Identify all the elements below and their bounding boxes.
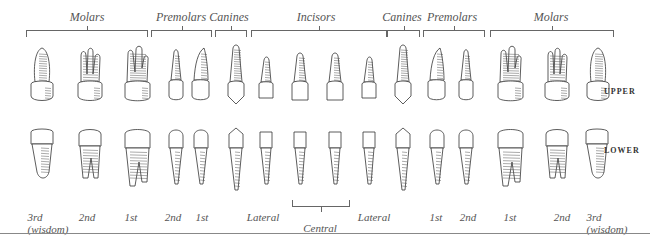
position-label: 2nd bbox=[79, 211, 96, 223]
tooth-illustration bbox=[122, 44, 152, 110]
position-label-text: 1st bbox=[504, 211, 517, 223]
upper-tooth-canine bbox=[388, 44, 418, 110]
tooth-illustration bbox=[320, 128, 350, 194]
position-label: 3rd(wisdom) bbox=[587, 211, 628, 235]
lower-tooth-lpremolar bbox=[186, 128, 216, 194]
lower-tooth-lincisor bbox=[354, 128, 384, 194]
position-label: 2nd bbox=[554, 211, 571, 223]
position-label: Lateral bbox=[247, 211, 279, 223]
upper-tooth-molar2 bbox=[75, 44, 105, 110]
position-label-text: 1st bbox=[430, 211, 443, 223]
lower-tooth-lincisor bbox=[285, 128, 315, 194]
lower-tooth-lmolar2 bbox=[542, 128, 572, 194]
group-label-canines: Canines bbox=[209, 10, 248, 25]
tooth-illustration bbox=[285, 128, 315, 194]
group-label-molars: Molars bbox=[70, 10, 105, 25]
tooth-illustration bbox=[388, 128, 418, 194]
tooth-illustration bbox=[251, 128, 281, 194]
tooth-illustration bbox=[354, 128, 384, 194]
upper-tooth-incisor-lat bbox=[251, 44, 281, 110]
position-label: 1st bbox=[430, 211, 443, 223]
upper-tooth-incisor bbox=[285, 44, 315, 110]
row-label-lower: LOWER bbox=[604, 146, 640, 155]
lower-tooth-lpremolar bbox=[451, 128, 481, 194]
upper-tooth-premolar bbox=[451, 44, 481, 110]
position-label-text: 3rd bbox=[28, 211, 43, 223]
tooth-illustration bbox=[542, 128, 572, 194]
lower-tooth-lcanine bbox=[221, 128, 251, 194]
lower-tooth-lincisor bbox=[251, 128, 281, 194]
group-bracket bbox=[423, 30, 485, 37]
group-label-incisors: Incisors bbox=[297, 10, 336, 25]
upper-tooth-molar2 bbox=[542, 44, 572, 110]
tooth-illustration bbox=[495, 128, 525, 194]
group-bracket bbox=[26, 30, 148, 37]
tooth-illustration bbox=[27, 128, 57, 194]
upper-tooth-molar1 bbox=[495, 44, 525, 110]
position-label-text: 2nd bbox=[554, 211, 571, 223]
group-bracket bbox=[151, 30, 212, 37]
tooth-illustration bbox=[542, 44, 572, 110]
position-label: 1st bbox=[125, 211, 138, 223]
upper-tooth-canine bbox=[221, 44, 251, 110]
tooth-illustration bbox=[354, 44, 384, 110]
position-label-text: Lateral bbox=[247, 211, 279, 223]
tooth-illustration bbox=[251, 44, 281, 110]
position-label: 1st bbox=[196, 211, 209, 223]
position-label-text: 2nd bbox=[165, 211, 182, 223]
tooth-illustration bbox=[186, 128, 216, 194]
position-label: 2nd bbox=[165, 211, 182, 223]
position-label-text: 3rd bbox=[587, 211, 602, 223]
tooth-illustration bbox=[320, 44, 350, 110]
position-label: 2nd bbox=[460, 211, 477, 223]
position-label-text: Lateral bbox=[358, 211, 390, 223]
lower-tooth-lmolar1 bbox=[495, 128, 525, 194]
lower-tooth-lmolar2 bbox=[75, 128, 105, 194]
position-label-text: 1st bbox=[196, 211, 209, 223]
position-label: 1st bbox=[504, 211, 517, 223]
tooth-illustration bbox=[451, 128, 481, 194]
lower-tooth-lmolar1 bbox=[122, 128, 152, 194]
bottom-rule bbox=[0, 233, 650, 234]
tooth-illustration bbox=[582, 128, 612, 194]
tooth-illustration bbox=[388, 44, 418, 110]
tooth-illustration bbox=[285, 44, 315, 110]
tooth-illustration bbox=[27, 44, 57, 110]
lower-tooth-lincisor bbox=[320, 128, 350, 194]
tooth-illustration bbox=[583, 44, 613, 110]
tooth-illustration bbox=[75, 128, 105, 194]
tooth-illustration bbox=[422, 44, 452, 110]
group-label-premolars: Premolars bbox=[427, 10, 477, 25]
tooth-illustration bbox=[186, 44, 216, 110]
lower-tooth-lcanine bbox=[388, 128, 418, 194]
position-label: 3rd(wisdom) bbox=[28, 211, 69, 235]
group-label-premolars: Premolars bbox=[156, 10, 206, 25]
upper-tooth-molar3 bbox=[27, 44, 57, 110]
tooth-illustration bbox=[221, 44, 251, 110]
lower-tooth-lmolar3 bbox=[27, 128, 57, 194]
position-label-text: 2nd bbox=[460, 211, 477, 223]
position-label-text: 2nd bbox=[79, 211, 96, 223]
upper-tooth-molar1 bbox=[122, 44, 152, 110]
tooth-illustration bbox=[422, 128, 452, 194]
tooth-illustration bbox=[495, 44, 525, 110]
tooth-illustration bbox=[122, 128, 152, 194]
tooth-illustration bbox=[221, 128, 251, 194]
upper-tooth-incisor-lat bbox=[354, 44, 384, 110]
lower-tooth-lpremolar bbox=[422, 128, 452, 194]
group-label-canines: Canines bbox=[382, 10, 421, 25]
upper-tooth-premolar-curved bbox=[186, 44, 216, 110]
upper-tooth-premolar-curved bbox=[422, 44, 452, 110]
upper-tooth-molar3 bbox=[583, 44, 613, 110]
group-bracket bbox=[387, 30, 420, 37]
group-bracket bbox=[490, 30, 614, 37]
row-label-upper: UPPER bbox=[604, 87, 636, 96]
position-label-text: 1st bbox=[125, 211, 138, 223]
group-label-molars: Molars bbox=[534, 10, 569, 25]
tooth-illustration bbox=[451, 44, 481, 110]
tooth-illustration bbox=[75, 44, 105, 110]
group-bracket bbox=[215, 30, 247, 37]
lower-tooth-lmolar3 bbox=[582, 128, 612, 194]
upper-tooth-incisor bbox=[320, 44, 350, 110]
group-bracket bbox=[251, 30, 387, 37]
